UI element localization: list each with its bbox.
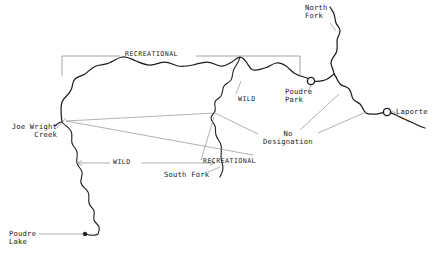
poudre-lake-marker	[83, 232, 87, 236]
laporte-marker	[383, 108, 390, 115]
river-classification-map: North Fork Poudre Park Laporte Joe Wrigh…	[0, 0, 438, 255]
leader-lines	[39, 23, 396, 234]
label-poudre-lake: Poudre Lake	[9, 230, 36, 247]
label-wild-upper: WILD	[238, 96, 256, 104]
label-recreational-lower: RECREATIONAL	[203, 158, 256, 166]
leader-north-fork	[330, 23, 336, 31]
label-laporte: Laporte	[396, 108, 428, 116]
label-no-designation: No Designation	[256, 130, 320, 147]
leader-recreational-lower	[201, 117, 214, 160]
leader-no-designation-c	[318, 112, 366, 133]
river-upper-to-poudre-lake	[62, 122, 99, 235]
label-joe-wright-creek: Joe Wright Creek	[0, 123, 57, 140]
label-south-fork: South Fork	[164, 171, 209, 179]
leader-boundary-diagonal	[66, 121, 253, 155]
river-north-fork	[330, 7, 340, 74]
label-north-fork: North Fork	[305, 4, 328, 21]
dimension-wild-lower	[77, 161, 215, 166]
label-wild-lower: WILD	[113, 159, 131, 167]
label-recreational-upper: RECREATIONAL	[125, 51, 178, 59]
leader-wild-upper	[236, 81, 241, 94]
leader-no-designation-a	[215, 113, 258, 134]
label-poudre-park: Poudre Park	[285, 88, 312, 105]
leader-south-fork	[208, 167, 220, 172]
poudre-park-marker	[307, 77, 314, 84]
map-canvas	[0, 0, 438, 255]
leader-boundary-diagonal-2	[66, 113, 215, 121]
